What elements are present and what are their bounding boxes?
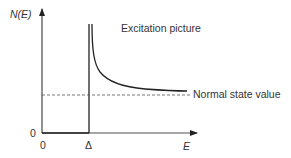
x-origin-label: 0 (40, 140, 46, 151)
normal-state-label: Normal state value (193, 89, 281, 100)
y-axis-label: N(E) (10, 9, 32, 20)
excitation-curve (92, 24, 187, 91)
x-axis-label: E (183, 141, 190, 152)
excitation-picture-label: Excitation picture (121, 23, 201, 34)
gap-delta-label: Δ (85, 140, 92, 151)
y-origin-label: 0 (30, 128, 36, 139)
